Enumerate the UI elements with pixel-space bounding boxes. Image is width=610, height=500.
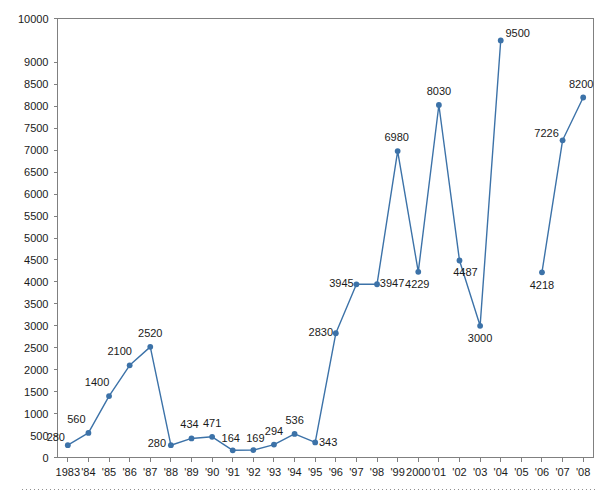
data-point-label: 2830 xyxy=(309,326,333,338)
data-point xyxy=(312,440,318,446)
y-axis-tick-label: 1000 xyxy=(24,408,48,420)
x-axis-tick-label: '06 xyxy=(535,466,549,478)
plot-frame xyxy=(58,19,594,458)
data-point xyxy=(86,430,92,436)
data-point xyxy=(560,137,566,143)
data-point-label: 471 xyxy=(203,417,221,429)
y-axis-tick-label: 7500 xyxy=(24,122,48,134)
data-point-label: 7226 xyxy=(534,127,558,139)
x-axis-tick-label: '86 xyxy=(122,466,136,478)
y-axis-tick-label: 6000 xyxy=(24,188,48,200)
y-axis-tick-label: 9000 xyxy=(24,56,48,68)
data-point-label: 4229 xyxy=(405,278,429,290)
x-axis-tick-label: '94 xyxy=(287,466,301,478)
data-point xyxy=(209,434,215,440)
x-axis-tick-label: '89 xyxy=(184,466,198,478)
data-point xyxy=(147,344,153,350)
data-point-label: 560 xyxy=(67,413,85,425)
data-point-label: 3947 xyxy=(380,277,404,289)
data-point xyxy=(539,269,545,275)
data-point xyxy=(127,362,133,368)
x-axis-tick-label: '05 xyxy=(514,466,528,478)
data-point xyxy=(106,393,112,399)
data-point xyxy=(333,330,339,336)
data-point-label: 8200 xyxy=(569,78,593,90)
x-axis-tick-label: '84 xyxy=(81,466,95,478)
y-axis-tick-label: 4000 xyxy=(24,276,48,288)
data-point xyxy=(354,281,360,287)
data-point xyxy=(189,436,195,442)
x-axis-tick-label: '90 xyxy=(205,466,219,478)
y-axis-tick-label: 8500 xyxy=(24,78,48,90)
data-point-label: 164 xyxy=(222,432,240,444)
data-point-label: 4487 xyxy=(453,266,477,278)
data-point-label: 1400 xyxy=(85,376,109,388)
data-point-label: 280 xyxy=(47,431,65,443)
data-point-label: 343 xyxy=(319,436,337,448)
line-chart: 0500100015002000250030003500400045005000… xyxy=(0,0,610,500)
x-axis: 1983'84'85'86'87'88'89'90'91'92'93'94'95… xyxy=(56,458,594,478)
x-axis-tick-label: 2000 xyxy=(406,466,430,478)
data-point xyxy=(292,431,298,437)
x-axis-tick-label: 1983 xyxy=(56,466,80,478)
y-axis-tick-label: 8000 xyxy=(24,100,48,112)
data-point xyxy=(457,258,463,264)
data-point-labels: 2805601400210025202804344711641692945363… xyxy=(47,27,594,449)
x-axis-tick-label: '07 xyxy=(555,466,569,478)
data-point-label: 6980 xyxy=(384,131,408,143)
x-axis-tick-label: '08 xyxy=(576,466,590,478)
y-axis-tick-label: 4500 xyxy=(24,254,48,266)
y-axis-tick-label: 3500 xyxy=(24,298,48,310)
y-axis-tick-label: 6500 xyxy=(24,166,48,178)
data-point-label: 2100 xyxy=(107,345,131,357)
x-axis-tick-label: '87 xyxy=(143,466,157,478)
data-point xyxy=(230,447,236,453)
y-axis-tick-label: 5500 xyxy=(24,210,48,222)
x-axis-tick-label: '91 xyxy=(226,466,240,478)
x-axis-tick-label: '85 xyxy=(102,466,116,478)
y-axis-tick-label: 5000 xyxy=(24,232,48,244)
data-point xyxy=(395,148,401,154)
data-series xyxy=(68,40,583,450)
data-point-label: 280 xyxy=(148,437,166,449)
data-point xyxy=(168,442,174,448)
data-point-label: 3945 xyxy=(329,277,353,289)
x-axis-tick-label: '03 xyxy=(473,466,487,478)
y-axis-tick-label: 3000 xyxy=(24,320,48,332)
y-axis-tick-label: 7000 xyxy=(24,144,48,156)
y-axis: 0500100015002000250030003500400045005000… xyxy=(18,13,58,464)
data-point xyxy=(436,102,442,108)
x-axis-tick-label: '04 xyxy=(494,466,508,478)
y-axis-tick-label: 2000 xyxy=(24,364,48,376)
x-axis-tick-label: '98 xyxy=(370,466,384,478)
data-point-label: 4218 xyxy=(530,279,554,291)
y-axis-tick-label: 0 xyxy=(42,452,48,464)
data-point-label: 3000 xyxy=(468,332,492,344)
data-point xyxy=(415,269,421,275)
data-point-label: 434 xyxy=(180,418,198,430)
data-point-label: 9500 xyxy=(505,27,529,39)
chart-canvas: 0500100015002000250030003500400045005000… xyxy=(0,0,610,500)
data-point xyxy=(477,323,483,329)
x-axis-tick-label: '02 xyxy=(452,466,466,478)
data-point-label: 2520 xyxy=(138,327,162,339)
x-axis-tick-label: '88 xyxy=(164,466,178,478)
y-axis-tick-label: 10000 xyxy=(18,13,49,25)
data-point-label: 169 xyxy=(246,432,264,444)
x-axis-tick-label: '95 xyxy=(308,466,322,478)
x-axis-tick-label: '92 xyxy=(246,466,260,478)
data-point xyxy=(580,95,586,101)
x-axis-tick-label: '97 xyxy=(349,466,363,478)
data-point-label: 536 xyxy=(285,414,303,426)
x-axis-tick-label: '01 xyxy=(432,466,446,478)
x-axis-tick-label: '99 xyxy=(390,466,404,478)
x-axis-tick-label: '93 xyxy=(267,466,281,478)
y-axis-tick-label: 2500 xyxy=(24,342,48,354)
data-point-label: 294 xyxy=(265,425,283,437)
data-point-label: 8030 xyxy=(427,85,451,97)
y-axis-tick-label: 1500 xyxy=(24,386,48,398)
data-point xyxy=(65,442,71,448)
data-point xyxy=(271,442,277,448)
data-point xyxy=(498,38,504,44)
x-axis-tick-label: '96 xyxy=(329,466,343,478)
